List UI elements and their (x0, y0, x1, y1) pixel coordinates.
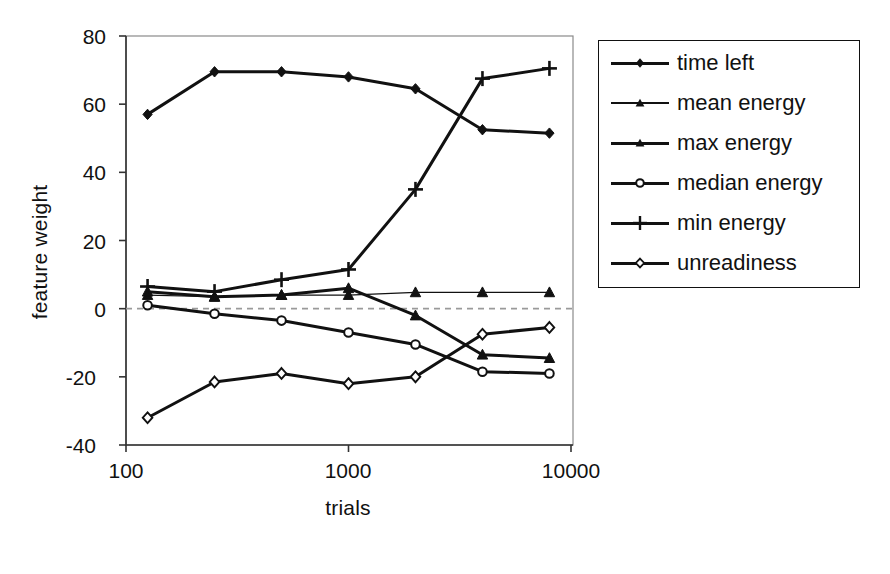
x-tick-label: 1000 (288, 459, 408, 483)
data-point-marker (545, 128, 554, 138)
data-point-marker (277, 368, 287, 379)
data-point-marker (545, 369, 554, 378)
data-point-marker (143, 301, 152, 310)
y-tick-label: 40 (46, 161, 106, 185)
legend-label: max energy (677, 132, 792, 154)
x-axis-title: trials (248, 496, 448, 520)
data-point-marker (344, 378, 354, 389)
x-tick-label: 100 (66, 459, 186, 483)
y-tick-label: -40 (36, 434, 96, 458)
legend-item-min-energy[interactable]: min energy (609, 203, 786, 243)
y-tick-label: 80 (46, 25, 106, 49)
data-point-marker (344, 328, 353, 337)
data-point-marker (478, 367, 487, 376)
legend-label: time left (677, 52, 754, 74)
legend-label: min energy (677, 212, 786, 234)
data-point-marker (277, 67, 286, 77)
chart-legend: time left mean energy max energy (598, 40, 860, 288)
legend-label: unreadiness (677, 252, 797, 274)
legend-marker-filled-triangle-icon (609, 93, 671, 113)
legend-marker-plus-icon (609, 213, 671, 233)
data-point-marker (210, 309, 219, 318)
legend-item-unreadiness[interactable]: unreadiness (609, 243, 797, 283)
legend-label: mean energy (677, 92, 805, 114)
y-tick-label: 60 (46, 93, 106, 117)
y-tick-label: -20 (36, 366, 96, 390)
chart-figure: feature weight trials 80 60 40 20 0 -20 … (0, 0, 890, 574)
legend-marker-open-circle-icon (609, 173, 671, 193)
x-tick-label: 10000 (511, 459, 631, 483)
legend-item-median-energy[interactable]: median energy (609, 163, 823, 203)
series-line (148, 305, 550, 373)
legend-marker-filled-diamond-icon (609, 53, 671, 73)
data-point-marker (411, 340, 420, 349)
legend-marker-open-diamond-icon (609, 253, 671, 273)
series-median-energy (143, 301, 553, 378)
data-point-marker (344, 72, 353, 82)
legend-item-mean-energy[interactable]: mean energy (609, 83, 805, 123)
series-min-energy (140, 61, 557, 299)
data-point-marker (143, 412, 153, 423)
legend-item-max-energy[interactable]: max energy (609, 123, 792, 163)
data-point-marker (277, 316, 286, 325)
series-line (148, 68, 550, 291)
data-point-marker (210, 377, 220, 388)
legend-item-time-left[interactable]: time left (609, 43, 754, 83)
y-tick-label: 20 (46, 230, 106, 254)
y-tick-label: 0 (46, 298, 106, 322)
data-point-marker (545, 322, 555, 333)
legend-marker-filled-triangle-icon (609, 133, 671, 153)
legend-label: median energy (677, 172, 823, 194)
